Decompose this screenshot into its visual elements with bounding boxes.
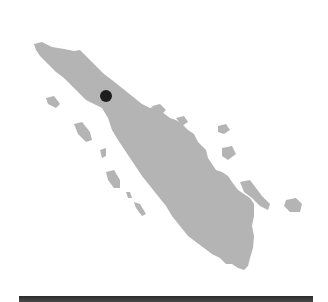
- simeulue-island: [46, 96, 60, 108]
- sipora-island: [126, 192, 132, 198]
- siberut-island: [106, 170, 120, 188]
- location-marker-icon: [100, 90, 112, 102]
- sumatra-map: [0, 0, 328, 302]
- batu-island: [100, 148, 106, 158]
- sumatra-mainland: [34, 42, 254, 270]
- pagai-island: [134, 202, 146, 216]
- nias-island: [74, 122, 92, 142]
- belitung-island: [284, 198, 302, 212]
- footer-bar: [19, 296, 313, 302]
- riau-island-4: [222, 146, 236, 160]
- riau-island-3: [218, 124, 230, 134]
